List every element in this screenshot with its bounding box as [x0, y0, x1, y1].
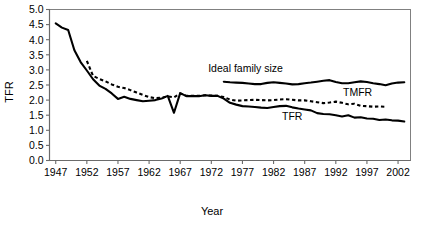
x-tick-label: 2002	[386, 166, 410, 178]
y-tick-label: 1.0	[29, 124, 44, 136]
y-tick-label: 2.0	[29, 94, 44, 106]
y-tick-label: 3.0	[29, 64, 44, 76]
x-tick-label: 1982	[262, 166, 286, 178]
y-tick-label: 3.5	[29, 49, 44, 61]
y-tick-label: 4.0	[29, 34, 44, 46]
x-tick-label: 1977	[231, 166, 255, 178]
x-axis-title: Year	[201, 205, 224, 217]
x-tick-label: 1997	[355, 166, 379, 178]
y-tick-label: 2.5	[29, 79, 44, 91]
y-tick-label: 0.0	[29, 154, 44, 166]
y-tick-label: 5.0	[29, 3, 44, 15]
tfr-label: TFR	[282, 110, 303, 122]
ideal-family-size-label: Ideal family size	[208, 62, 283, 74]
y-axis-tick-labels: 0.00.51.01.52.02.53.03.54.04.55.0	[29, 3, 44, 166]
y-tick-label: 1.5	[29, 109, 44, 121]
x-tick-label: 1947	[44, 166, 68, 178]
x-tick-label: 1967	[169, 166, 193, 178]
y-tick-label: 4.5	[29, 18, 44, 30]
y-axis-title: TFR	[3, 81, 15, 102]
chart-background	[0, 0, 421, 227]
y-tick-label: 0.5	[29, 139, 44, 151]
x-tick-label: 1952	[75, 166, 99, 178]
x-tick-label: 1992	[324, 166, 348, 178]
fertility-line-chart: 0.00.51.01.52.02.53.03.54.04.55.0 194719…	[0, 0, 421, 227]
x-tick-label: 1957	[106, 166, 130, 178]
x-tick-label: 1972	[200, 166, 224, 178]
x-tick-label: 1987	[293, 166, 317, 178]
x-tick-label: 1962	[137, 166, 161, 178]
tmfr-label: TMFR	[343, 86, 373, 98]
chart-canvas: 0.00.51.01.52.02.53.03.54.04.55.0 194719…	[0, 0, 421, 227]
